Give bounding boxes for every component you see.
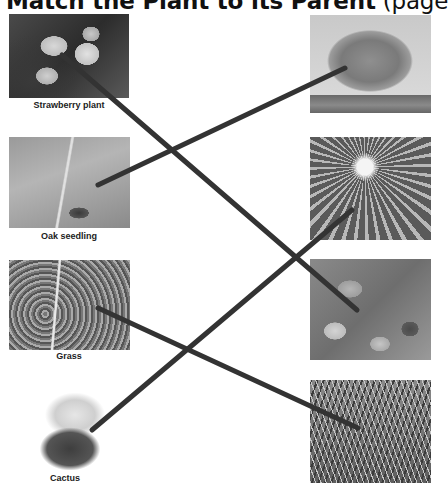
strawberry-leaves-photo: [310, 259, 431, 360]
page-title: Match the Plant to its Parent (page: [6, 0, 448, 14]
barrel-cactus-photo: [310, 137, 431, 240]
match-line-oak[interactable]: [98, 68, 345, 185]
title-suffix: (page: [376, 0, 448, 14]
grass-lawn-photo: [310, 380, 431, 483]
grass-sprout-photo: [9, 260, 130, 350]
label-grass: Grass: [4, 351, 134, 361]
label-oak-seedling: Oak seedling: [4, 231, 134, 241]
strawberry-plant-photo: [9, 14, 129, 98]
label-cactus: Cactus: [0, 473, 130, 483]
oak-tree-photo: [310, 15, 431, 113]
cactus-photo: [15, 385, 115, 470]
title-main: Match the Plant to its Parent: [6, 0, 376, 14]
oak-seedling-photo: [9, 137, 130, 228]
